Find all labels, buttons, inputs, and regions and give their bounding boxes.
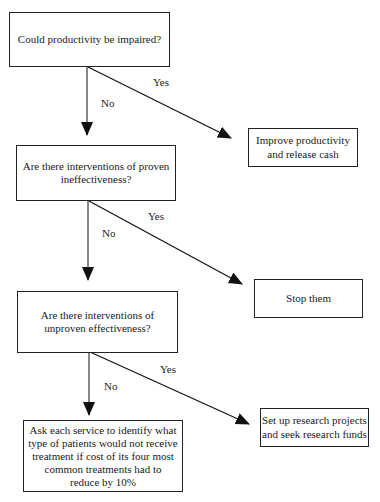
node-q2-line: ineffectiveness?: [61, 173, 132, 185]
edge-label-q1-yes: Yes: [153, 76, 169, 88]
node-q3-line: unproven effectiveness?: [44, 322, 150, 334]
node-a3-text: Set up research projectsand seek researc…: [262, 414, 367, 441]
arrow-q2-yes: [89, 201, 242, 284]
node-q3-line: Are there interventions of: [41, 309, 154, 321]
node-q2-line: Are there interventions of proven: [23, 160, 170, 172]
edge-label-q1-no: No: [101, 97, 114, 109]
node-a3: Set up research projectsand seek researc…: [260, 408, 369, 447]
node-a2: Stop them: [254, 279, 363, 318]
node-a4-line: Ask each service to identify what: [30, 424, 177, 436]
node-q1: Could productivity be impaired?: [9, 12, 170, 67]
node-a4-line: common treatments had to: [45, 463, 162, 475]
node-q2-text: Are there interventions of provenineffec…: [23, 160, 170, 187]
edge-label-q2-no: No: [102, 227, 115, 239]
node-a4-line: reduce by 10%: [70, 476, 136, 488]
node-a3-line: and seek research funds: [262, 428, 367, 440]
edge-label-q3-yes: Yes: [160, 363, 176, 375]
edge-label-q2-yes: Yes: [148, 210, 164, 222]
node-a4-line: treatment if cost of its four most: [32, 450, 174, 462]
node-a4-text: Ask each service to identify whattype of…: [28, 424, 177, 489]
node-a1: Improve productivityand release cash: [248, 128, 358, 167]
node-q2: Are there interventions of provenineffec…: [16, 145, 176, 201]
node-a3-line: Set up research projects: [262, 414, 367, 426]
node-a4-line: type of patients would not receive: [28, 437, 177, 449]
node-q3-text: Are there interventions ofunproven effec…: [41, 309, 154, 336]
node-q3: Are there interventions ofunproven effec…: [17, 291, 178, 353]
edge-label-q3-no: No: [104, 380, 117, 392]
node-a1-text: Improve productivityand release cash: [256, 134, 350, 161]
node-a1-line: Improve productivity: [256, 134, 350, 146]
node-a4: Ask each service to identify whattype of…: [23, 420, 183, 492]
node-a2-text: Stop them: [286, 292, 331, 306]
node-q1-text: Could productivity be impaired?: [18, 33, 161, 47]
node-a1-line: and release cash: [267, 148, 338, 160]
